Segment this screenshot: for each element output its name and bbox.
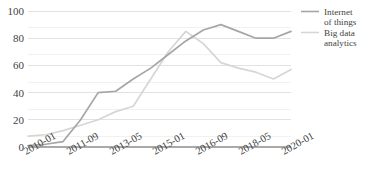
- legend: Internet of things Big data analytics: [301, 7, 357, 49]
- y-tick-label: 60: [13, 59, 25, 71]
- y-tick-label: 100: [8, 5, 25, 17]
- legend-label-internet-of-things-line2: of things: [324, 17, 357, 27]
- legend-label-internet-of-things-line1: Internet: [324, 7, 353, 17]
- y-tick-label: 20: [13, 114, 25, 126]
- x-tick-label: 2018-05: [237, 130, 273, 157]
- x-tick-label: 2015-01: [151, 130, 187, 157]
- series-group: [28, 25, 291, 146]
- x-axis-tick-labels: 2010-01 2011-09 2013-05 2015-01 2016-09 …: [22, 130, 316, 157]
- y-axis-tick-labels: 100 80 60 40 20 0: [8, 5, 25, 153]
- legend-label-big-data-analytics-line2: analytics: [324, 38, 357, 48]
- series-line-internet-of-things: [28, 25, 291, 146]
- x-tick-label: 2013-05: [108, 130, 144, 157]
- chart-canvas: 100 80 60 40 20 0 2010-01 2011-09 2013-0…: [0, 0, 372, 193]
- line-chart: 100 80 60 40 20 0 2010-01 2011-09 2013-0…: [0, 0, 372, 193]
- series-line-big-data-analytics: [28, 31, 291, 136]
- y-tick-label: 40: [13, 87, 25, 99]
- y-tick-label: 80: [13, 32, 25, 44]
- x-tick-label: 2016-09: [194, 130, 230, 157]
- x-tick-label: 2020-01: [280, 130, 316, 157]
- legend-label-big-data-analytics-line1: Big data: [324, 28, 355, 38]
